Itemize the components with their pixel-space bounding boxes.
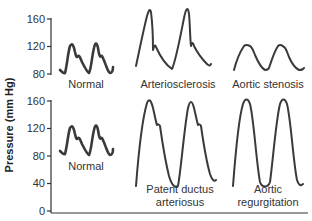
bottom-tick-120: 120 [27, 122, 45, 134]
waveform-aortic-stenosis [234, 45, 304, 70]
label-ar-line1: Aortic [254, 183, 283, 195]
waveform-patent-ductus-arteriosus [136, 100, 216, 186]
waveform-normal-top [60, 44, 113, 74]
waveform-aortic-regurgitation [233, 100, 303, 187]
label-arteriosclerosis: Arteriosclerosis [140, 78, 216, 90]
label-pda-line2: arteriosus [156, 196, 205, 208]
label-normal-bottom: Normal [68, 160, 103, 172]
pressure-chart: Pressure (mm Hg) 160 120 80 160 120 80 4… [0, 0, 312, 221]
y-axis-title: Pressure (mm Hg) [3, 77, 15, 172]
label-normal-top: Normal [68, 78, 103, 90]
bottom-tick-40: 40 [33, 177, 45, 189]
top-tick-120: 120 [27, 40, 45, 52]
top-tick-80: 80 [33, 68, 45, 80]
bottom-tick-160: 160 [27, 95, 45, 107]
waveform-normal-bottom [60, 126, 113, 156]
label-ar-line2: regurgitation [237, 196, 298, 208]
top-axis: 160 120 80 [27, 13, 51, 80]
label-aortic-stenosis: Aortic stenosis [232, 78, 304, 90]
top-tick-160: 160 [27, 13, 45, 25]
label-pda-line1: Patent ductus [146, 183, 214, 195]
bottom-tick-80: 80 [33, 150, 45, 162]
bottom-tick-0: 0 [39, 205, 45, 217]
waveform-arteriosclerosis [136, 9, 211, 69]
